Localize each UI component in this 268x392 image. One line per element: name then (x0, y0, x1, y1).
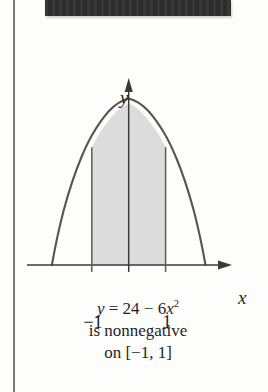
parabola-figure: y x −1 1 (0, 40, 268, 290)
figure-caption: y = 24 − 6x2 is nonnegative on [−1, 1] (18, 298, 258, 363)
caption-line-equation: y = 24 − 6x2 (18, 298, 258, 320)
caption-equation-variable: x (166, 299, 174, 318)
caption-line-interval: on [−1, 1] (18, 342, 258, 364)
caption-line-nonnegative: is nonnegative (18, 320, 258, 342)
caption-equation-exponent: 2 (174, 298, 179, 309)
parabola-chart-svg (0, 40, 268, 290)
caption-equation-lhs: y (97, 299, 105, 318)
x-axis-arrowhead (218, 261, 232, 270)
redaction-bar (45, 0, 231, 16)
caption-equation-rhs: = 24 − 6 (105, 299, 167, 318)
y-axis-label: y (120, 87, 128, 109)
figure-page: y x −1 1 y = 24 − 6x2 is nonnegative on … (0, 0, 268, 392)
